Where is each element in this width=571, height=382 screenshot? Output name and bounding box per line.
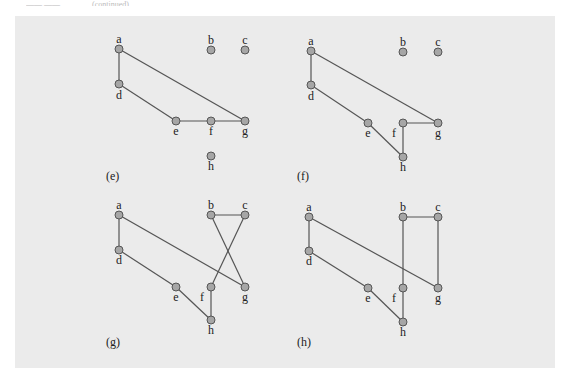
edge-a-g (119, 49, 245, 121)
node-c (241, 46, 249, 54)
node-label-h: h (400, 160, 406, 174)
node-f (399, 119, 407, 127)
node-b (399, 48, 407, 56)
subfigure-h: abcdefgh(h) (297, 200, 442, 349)
node-c (434, 48, 442, 56)
edge-a-g (309, 217, 438, 288)
subfigure-caption: (f) (297, 169, 309, 183)
node-a (115, 211, 123, 219)
subfigure-f: abcdefgh(f) (297, 34, 442, 183)
node-label-h: h (208, 159, 214, 173)
node-b (207, 46, 215, 54)
node-label-f: f (392, 126, 396, 140)
node-label-a: a (308, 34, 314, 48)
node-label-e: e (365, 126, 370, 140)
node-label-b: b (400, 200, 406, 214)
node-label-e: e (173, 290, 178, 304)
subfigure-e: abcdefgh(e) (106, 32, 249, 183)
node-label-c: c (242, 198, 247, 212)
edge-e-h (368, 288, 403, 322)
node-label-e: e (173, 124, 178, 138)
node-c (241, 211, 249, 219)
edge-e-h (368, 123, 403, 157)
node-d (307, 81, 315, 89)
node-label-g: g (242, 124, 248, 138)
node-label-d: d (308, 89, 314, 103)
edge-d-e (311, 85, 368, 123)
node-f (207, 283, 215, 291)
node-label-g: g (242, 290, 248, 304)
node-label-g: g (435, 291, 441, 305)
node-b (207, 211, 215, 219)
node-label-a: a (116, 32, 122, 46)
node-d (115, 80, 123, 88)
node-label-h: h (400, 325, 406, 339)
node-label-a: a (116, 198, 122, 212)
subfigure-caption: (e) (106, 169, 119, 183)
node-a (305, 213, 313, 221)
edge-d-e (119, 250, 176, 287)
node-label-b: b (208, 198, 214, 212)
subfigure-g: abcdefgh(g) (106, 198, 249, 349)
node-label-a: a (306, 200, 312, 214)
node-label-g: g (435, 126, 441, 140)
node-a (307, 47, 315, 55)
node-a (115, 45, 123, 53)
node-label-d: d (116, 253, 122, 267)
node-f (399, 284, 407, 292)
node-label-h: h (208, 323, 214, 337)
node-label-c: c (435, 35, 440, 49)
node-label-f: f (392, 291, 396, 305)
node-label-c: c (435, 200, 440, 214)
edge-d-e (119, 84, 176, 121)
edge-a-g (119, 215, 245, 287)
node-label-d: d (116, 88, 122, 102)
graph-figure: abcdefgh(e)abcdefgh(f)abcdefgh(g)abcdefg… (0, 0, 571, 382)
edge-e-h (176, 287, 211, 320)
edge-a-g (311, 51, 438, 123)
subfigure-caption: (h) (297, 335, 311, 349)
node-label-b: b (400, 35, 406, 49)
subfigure-caption: (g) (106, 335, 120, 349)
node-b (399, 213, 407, 221)
node-c (434, 213, 442, 221)
node-label-d: d (306, 254, 312, 268)
node-label-f: f (209, 124, 213, 138)
node-label-c: c (242, 33, 247, 47)
node-label-e: e (365, 291, 370, 305)
node-label-b: b (208, 33, 214, 47)
node-label-f: f (200, 290, 204, 304)
edge-d-e (309, 251, 368, 288)
